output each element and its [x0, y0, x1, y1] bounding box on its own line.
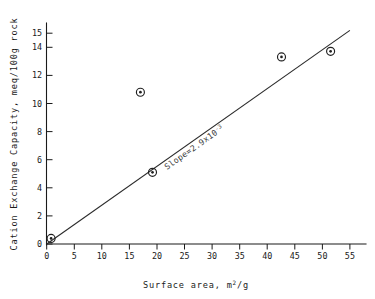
x-tick-label-40: 40 [262, 251, 272, 261]
chart-figure: 0 2 4 6 8 10 12 14 15 Cation Exchan [0, 0, 375, 299]
y-tick-label-0: 0 [37, 239, 42, 249]
x-tick-label-15: 15 [124, 251, 134, 261]
x-tick-label-30: 30 [207, 251, 217, 261]
x-tick-label-20: 20 [152, 251, 162, 261]
x-tick-label-0: 0 [44, 251, 49, 261]
x-tick-label-10: 10 [97, 251, 107, 261]
marker-center-dot [329, 50, 332, 53]
y-tick-label-10: 10 [32, 99, 42, 109]
x-axis-title-base: Surface area, m [143, 280, 233, 290]
x-tick-label-5: 5 [72, 251, 77, 261]
marker-center-dot [280, 56, 283, 59]
scatter-plot-canvas: 0 2 4 6 8 10 12 14 15 Cation Exchan [0, 0, 375, 299]
x-tick-label-25: 25 [179, 251, 189, 261]
x-tick-label-55: 55 [345, 251, 355, 261]
y-tick-label-6: 6 [37, 155, 42, 165]
x-tick-label-45: 45 [290, 251, 300, 261]
marker-center-dot [50, 237, 53, 240]
y-tick-label-12: 12 [32, 70, 42, 80]
x-tick-label-50: 50 [317, 251, 327, 261]
marker-center-dot [139, 91, 142, 94]
y-tick-label-4: 4 [37, 183, 42, 193]
y-tick-label-15: 15 [32, 28, 42, 38]
y-tick-label-2: 2 [37, 211, 42, 221]
x-axis-title-tail: /g [237, 280, 249, 290]
y-axis-title: Cation Exchange Capacity, meq/100g rock [9, 17, 19, 250]
x-tick-label-35: 35 [235, 251, 245, 261]
marker-center-dot [151, 171, 154, 174]
y-tick-label-8: 8 [37, 127, 42, 137]
y-tick-label-14: 14 [32, 42, 42, 52]
